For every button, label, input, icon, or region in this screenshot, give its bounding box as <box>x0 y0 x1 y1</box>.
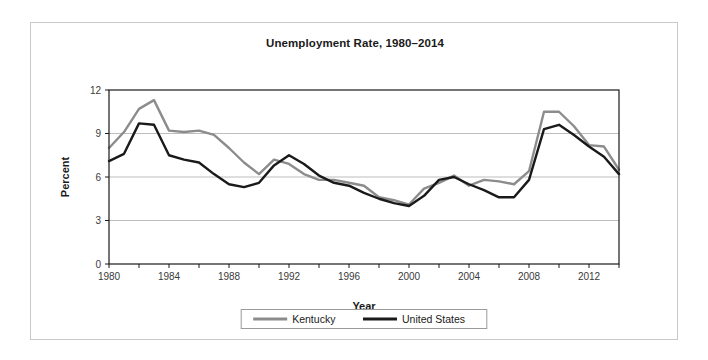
data-series-layer <box>109 100 619 206</box>
legend-label: Kentucky <box>292 313 336 325</box>
series-line-kentucky <box>109 100 619 204</box>
y-axis-title: Percent <box>59 156 71 197</box>
y-tick-label: 9 <box>95 128 101 139</box>
legend-label: United States <box>402 313 465 325</box>
x-tick-label: 2008 <box>518 271 541 282</box>
chart-legend: KentuckyUnited States <box>241 310 487 329</box>
x-tick-label: 2004 <box>458 271 481 282</box>
y-tick-label: 3 <box>95 215 101 226</box>
y-tick-label: 6 <box>95 172 101 183</box>
figure-panel: Unemployment Rate, 1980–2014 036912 1980… <box>30 22 678 340</box>
x-tick-label: 1988 <box>218 271 241 282</box>
y-tick-label: 0 <box>95 259 101 270</box>
series-line-united-states <box>109 123 619 206</box>
x-tick-label: 1984 <box>158 271 181 282</box>
gridlines <box>109 134 619 221</box>
x-tick-label: 1992 <box>278 271 301 282</box>
x-axis-ticks: 198019841988199219962000200420082012 <box>98 264 619 282</box>
y-tick-label: 12 <box>90 85 102 96</box>
x-tick-label: 1996 <box>338 271 361 282</box>
y-axis-ticks: 036912 <box>90 85 109 270</box>
x-tick-label: 2012 <box>578 271 601 282</box>
x-tick-label: 2000 <box>398 271 421 282</box>
line-chart: 036912 198019841988199219962000200420082… <box>31 23 679 341</box>
x-tick-label: 1980 <box>98 271 121 282</box>
